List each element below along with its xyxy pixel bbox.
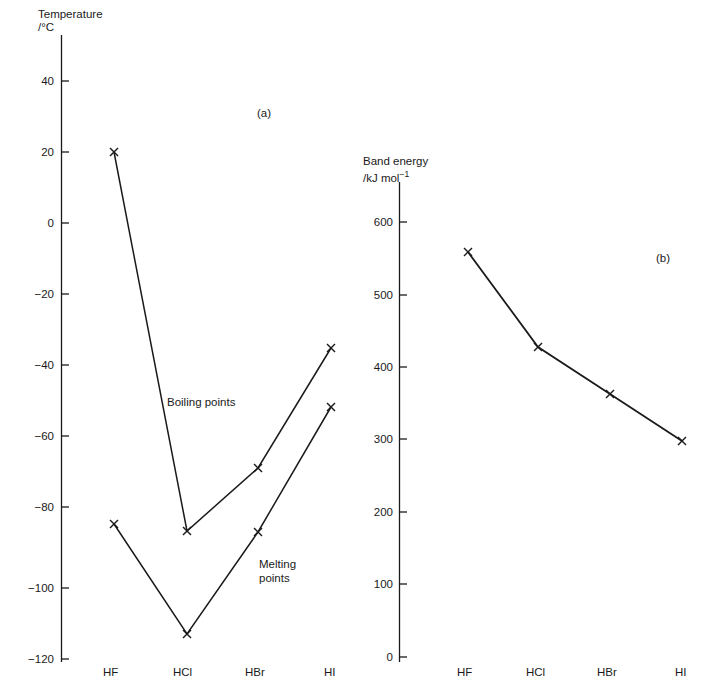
panel-a-y-ticks [62, 81, 70, 659]
panel-b-axes [400, 182, 408, 662]
marker-melting-hcl [183, 630, 191, 638]
marker-boiling-hbr [254, 464, 262, 472]
marker-boiling-hi [327, 344, 335, 352]
marker-bond-hi [678, 437, 686, 445]
marker-melting-hi [327, 403, 335, 411]
marker-bond-hbr [606, 390, 614, 398]
bond-energy-markers [464, 248, 686, 445]
panel-b-series-bond-energy [464, 248, 686, 445]
panel-a-series-melting-points [110, 403, 335, 638]
plot-vector-layer [0, 0, 711, 700]
panel-a-axes [62, 35, 70, 662]
panel-a-series-boiling-points [110, 148, 335, 535]
boiling-points-polyline [114, 152, 331, 531]
marker-bond-hf [464, 248, 472, 256]
melting-points-markers [110, 403, 335, 638]
bond-energy-polyline [468, 252, 682, 441]
marker-melting-hf [110, 520, 118, 528]
marker-bond-hcl [534, 343, 542, 351]
panel-b-y-ticks [400, 222, 408, 657]
melting-points-polyline [114, 407, 331, 634]
figure-canvas: Temperature /°C (a) 40 20 0 −20 −40 −60 … [0, 0, 711, 700]
marker-melting-hbr [254, 528, 262, 536]
boiling-points-markers [110, 148, 335, 535]
